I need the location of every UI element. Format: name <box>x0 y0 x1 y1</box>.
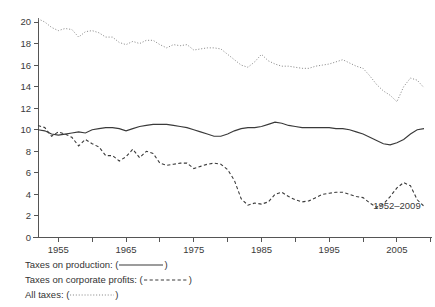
y-axis-tick-labels: 02468101214161820 <box>20 16 31 243</box>
y-tick-label: 8 <box>26 146 31 157</box>
x-tick-label: 1985 <box>251 244 272 255</box>
y-tick-label: 20 <box>20 16 31 27</box>
legend-label: Taxes on production: ( <box>25 259 118 270</box>
y-tick-label: 18 <box>20 38 31 49</box>
series-line-all-taxes <box>38 19 424 102</box>
y-tick-label: 12 <box>20 103 31 114</box>
chart-legend: Taxes on production: ()Taxes on corporat… <box>25 256 425 301</box>
x-tick-label: 1975 <box>183 244 204 255</box>
y-tick-label: 14 <box>20 81 31 92</box>
legend-line-swatch-dotted <box>69 291 115 298</box>
x-tick-label: 1955 <box>48 244 69 255</box>
series-line-taxes-on-corporate-profits <box>38 125 424 207</box>
series-line-taxes-on-production <box>38 122 424 145</box>
legend-row: Taxes on corporate profits: () <box>25 271 425 286</box>
x-tick-label: 1965 <box>115 244 136 255</box>
legend-label-suffix: ) <box>164 259 167 270</box>
y-tick-label: 10 <box>20 124 31 135</box>
x-tick-label: 1995 <box>319 244 340 255</box>
legend-line-swatch-solid <box>118 261 164 268</box>
x-axis-tick-labels: 195519651975198519952005 <box>48 244 408 255</box>
legend-label-suffix: ) <box>189 274 192 285</box>
legend-label: All taxes: ( <box>25 289 69 300</box>
chart-series-lines <box>38 19 424 208</box>
y-tick-label: 4 <box>26 189 31 200</box>
chart-figure: 02468101214161820 1955196519751985199520… <box>0 0 435 307</box>
y-tick-label: 2 <box>26 210 31 221</box>
y-tick-label: 16 <box>20 60 31 71</box>
legend-row: All taxes: () <box>25 286 425 301</box>
legend-label-suffix: ) <box>115 289 118 300</box>
chart-annotation-period: 1952–2009 <box>373 200 421 211</box>
legend-line-swatch-dashed <box>143 276 189 283</box>
x-tick-label: 2005 <box>386 244 407 255</box>
y-tick-label: 6 <box>26 167 31 178</box>
legend-row: Taxes on production: () <box>25 256 425 271</box>
y-tick-label: 0 <box>26 232 31 243</box>
chart-annotations: 1952–2009 <box>373 200 421 211</box>
legend-label: Taxes on corporate profits: ( <box>25 274 143 285</box>
